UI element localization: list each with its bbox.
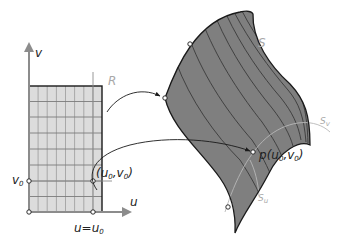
su-curve-label: Su [258,193,269,205]
v0-label: v0 [12,173,24,188]
surface-corner-point-top [188,42,192,46]
v-axis-label: v [35,46,43,60]
surface-corner-point-left [163,96,167,100]
parametric-surface-diagram: v u R v0 u=u0 (u0,v0) [0,0,345,248]
u0-label: u=u0 [74,221,104,236]
surface-label-S: S [258,36,266,50]
surface-point-p [251,150,255,154]
region-label-R: R [108,74,116,88]
u0-point [91,210,95,214]
u0v0-label: (u0,v0) [96,166,133,181]
u-axis-label: u [130,195,138,209]
parameter-domain-region: v u R v0 u=u0 (u0,v0) [12,44,138,236]
origin-point [27,210,31,214]
v0-point [27,179,31,183]
parametric-surface: S p(u0,v0) Sv Su [163,11,331,233]
surface-point-bottom [226,205,230,209]
mapping-arrow-corner [107,92,160,112]
